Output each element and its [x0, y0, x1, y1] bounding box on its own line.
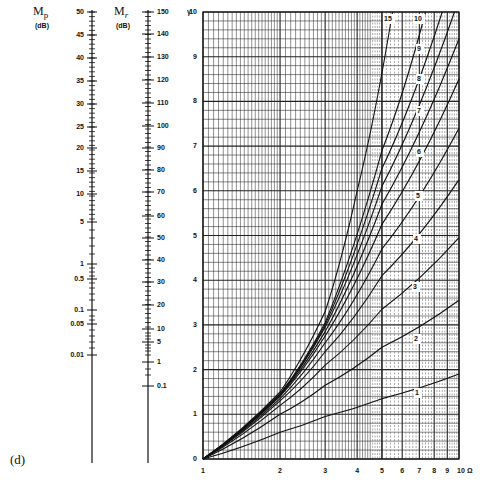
y-axis-tick-label: 1 [193, 410, 197, 418]
curve-label: 4 [414, 235, 418, 243]
curve-label: 3 [413, 283, 417, 291]
mp-tick-label: 40 [76, 54, 84, 62]
x-axis-label: Ω [467, 467, 473, 475]
mr-tick-label: 60 [157, 212, 165, 220]
mr-tick-label: 70 [157, 188, 165, 196]
x-axis-tick-label: 8 [432, 467, 436, 475]
mp-tick-label: 1 [80, 260, 84, 268]
mp-tick-label: 15 [76, 167, 84, 175]
mr-tick-label: 120 [157, 76, 169, 84]
mr-tick-label: 5 [157, 338, 161, 346]
panel-label: (d) [10, 452, 25, 468]
curve-label: 7 [417, 107, 421, 115]
mr-tick-label: 10 [157, 325, 165, 333]
mp-tick-label: 50 [76, 8, 84, 16]
mr-tick-label: 80 [157, 166, 165, 174]
y-axis-tick-label: 0 [193, 455, 197, 463]
curve-label: 15 [384, 15, 392, 23]
curve-label: 6 [417, 148, 421, 156]
mp-tick-label: 0.1 [74, 306, 84, 314]
mp-tick-label: 25 [76, 123, 84, 131]
curve-label: 9 [417, 45, 421, 53]
mr-tick-label: 110 [157, 99, 168, 107]
x-axis-tick-label: 1 [201, 467, 205, 475]
mp-tick-label: 0.5 [74, 275, 84, 283]
mp-scale-axis [87, 10, 97, 463]
x-axis-tick-label: 6 [400, 467, 404, 475]
curve-3 [203, 238, 459, 459]
y-axis-tick-label: 5 [193, 232, 197, 240]
x-axis-tick-label: 3 [323, 467, 327, 475]
curve-label: 2 [414, 335, 418, 343]
mr-tick-label: 1 [157, 358, 161, 366]
y-axis-tick-label: 8 [193, 97, 197, 105]
y-axis-tick-label: 2 [193, 366, 197, 374]
mp-scale-title: Mp [33, 4, 48, 20]
x-axis-tick-label: 4 [355, 467, 359, 475]
mp-tick-label: 20 [76, 144, 84, 152]
mp-tick-label: 45 [76, 31, 84, 39]
mr-tick-label: 100 [157, 122, 169, 130]
mr-scale-title: Mr [114, 4, 128, 20]
mp-tick-label: 35 [76, 77, 84, 85]
mr-tick-label: 130 [157, 53, 169, 61]
curve-label: 10 [414, 15, 422, 23]
x-axis-tick-label: 10 [457, 467, 465, 475]
nomogram-figure: Mp (dB) Mr (dB) 504540353025201510510.50… [0, 0, 484, 484]
curve-label: 5 [416, 192, 420, 200]
mp-tick-label: 0.01 [70, 351, 84, 359]
curve-6 [203, 79, 459, 459]
x-axis-tick-label: 7 [417, 467, 421, 475]
mr-tick-label: 20 [157, 301, 165, 309]
mp-tick-label: 10 [76, 190, 84, 198]
y-axis-tick-label: 7 [193, 142, 197, 150]
mr-scale-unit: (dB) [116, 22, 130, 29]
mp-tick-label: 5 [80, 218, 84, 226]
chart-canvas [0, 0, 484, 484]
mr-tick-label: 40 [157, 256, 165, 264]
mr-tick-label: 140 [157, 30, 169, 38]
curve-4 [203, 180, 459, 459]
mr-scale-axis [142, 10, 154, 463]
mp-scale-unit: (dB) [35, 22, 49, 29]
curve-label: 1 [415, 389, 419, 397]
mr-tick-label: 150 [157, 8, 169, 16]
x-axis-tick-label: 9 [445, 467, 449, 475]
mp-tick-label: 30 [76, 100, 84, 108]
mr-tick-label: 0.1 [157, 382, 167, 390]
x-axis-tick-label: 2 [278, 467, 282, 475]
y-axis-tick-label: 3 [193, 321, 197, 329]
curve-label: 8 [417, 75, 421, 83]
mr-tick-label: 30 [157, 278, 165, 286]
y-axis-label: γ [187, 8, 191, 16]
y-axis-tick-label: 6 [193, 187, 197, 195]
x-axis-tick-label: 5 [380, 467, 384, 475]
y-axis-tick-label: 9 [193, 53, 197, 61]
mp-tick-label: 0.05 [70, 320, 84, 328]
y-axis-tick-label: 4 [193, 276, 197, 284]
mr-tick-label: 50 [157, 234, 165, 242]
curve-1 [203, 374, 459, 459]
mr-tick-label: 90 [157, 144, 165, 152]
